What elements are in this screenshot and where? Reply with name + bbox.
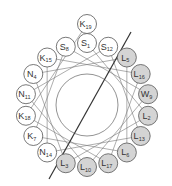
residue-N14: N14 xyxy=(38,143,57,162)
helical-wheel-diagram: S1L2L3N4L5L6K7S8W9L10N11S12L13N14K15L16L… xyxy=(0,0,172,186)
residue-W9: W9 xyxy=(139,85,158,104)
residue-L2: L2 xyxy=(139,106,158,125)
residue-K19: K19 xyxy=(78,15,97,34)
residue-L13: L13 xyxy=(131,127,150,146)
residue-N4: N4 xyxy=(24,65,43,84)
residue-L6: L6 xyxy=(117,143,136,162)
residue-L3: L3 xyxy=(56,154,75,173)
residue-L16: L16 xyxy=(131,65,150,84)
residue-S8: S8 xyxy=(56,37,75,56)
inner-circle xyxy=(56,74,118,136)
residue-K15: K15 xyxy=(38,48,57,67)
residue-N11: N11 xyxy=(16,85,35,104)
residue-S1: S1 xyxy=(78,34,97,53)
residue-L17: L17 xyxy=(99,154,118,173)
residue-L5: L5 xyxy=(117,48,136,67)
residue-L10: L10 xyxy=(78,158,97,177)
residue-nodes: S1L2L3N4L5L6K7S8W9L10N11S12L13N14K15L16L… xyxy=(16,15,157,177)
residue-S12: S12 xyxy=(99,37,118,56)
residue-K18: K18 xyxy=(16,106,35,125)
residue-K7: K7 xyxy=(24,127,43,146)
